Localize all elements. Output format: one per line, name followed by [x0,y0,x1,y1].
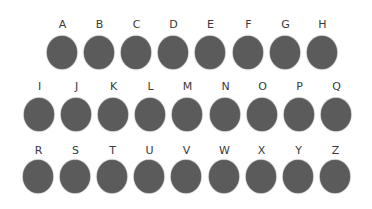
letter-label: Z [320,145,351,157]
circle-icon[interactable] [84,36,114,69]
letter-label: Y [283,145,314,157]
circle-icon[interactable] [134,160,164,193]
circle-icon[interactable] [121,36,151,69]
letter-label: R [23,145,54,157]
circle-icon[interactable] [24,98,54,131]
circle-icon[interactable] [172,98,202,131]
letter-label: I [24,81,55,93]
circle-icon[interactable] [270,36,300,69]
letter-label: W [209,145,240,157]
circle-icon[interactable] [158,36,188,69]
letter-label: F [233,19,264,31]
circle-icon[interactable] [210,98,240,131]
letter-label: P [284,81,315,93]
circle-icon[interactable] [23,160,53,193]
letter-label: N [210,81,241,93]
circle-icon[interactable] [98,98,128,131]
letter-label: H [307,19,338,31]
letter-label: J [61,81,92,93]
letter-label: O [247,81,278,93]
letter-label: T [97,145,128,157]
circle-icon[interactable] [195,36,225,69]
letter-label: A [47,19,78,31]
letter-label: M [172,81,203,93]
letter-label: E [195,19,226,31]
circle-icon[interactable] [307,36,337,69]
circle-icon[interactable] [321,98,351,131]
circle-icon[interactable] [135,98,165,131]
circle-icon[interactable] [47,36,77,69]
circle-icon[interactable] [209,160,239,193]
letter-label: U [134,145,165,157]
circle-icon[interactable] [283,160,313,193]
letter-label: L [135,81,166,93]
circle-icon[interactable] [233,36,263,69]
circle-icon[interactable] [246,160,276,193]
letter-label: S [60,145,91,157]
letter-label: K [98,81,129,93]
circle-icon[interactable] [247,98,277,131]
letter-label: C [121,19,152,31]
circle-icon[interactable] [97,160,127,193]
circle-icon[interactable] [320,160,350,193]
letter-label: B [84,19,115,31]
circle-icon[interactable] [61,98,91,131]
letter-label: D [158,19,189,31]
letter-label: V [171,145,202,157]
letter-label: X [246,145,277,157]
letter-label: G [270,19,301,31]
letter-label: Q [321,81,352,93]
circle-icon[interactable] [284,98,314,131]
circle-icon[interactable] [171,160,201,193]
circle-icon[interactable] [60,160,90,193]
